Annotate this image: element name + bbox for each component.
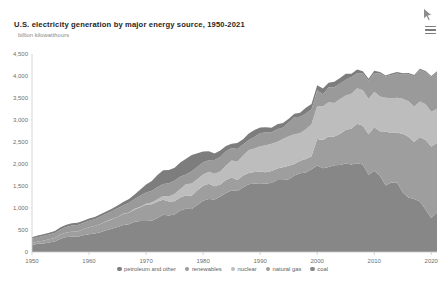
axis-lines — [32, 54, 437, 252]
y-axis-tick-label: 4,000 — [2, 73, 28, 79]
y-axis-tick-label: 3,500 — [2, 95, 28, 101]
legend-swatch-icon — [266, 267, 271, 272]
chart-legend: petroleum and otherrenewablesnuclearnatu… — [0, 266, 445, 272]
legend-swatch-icon — [310, 267, 315, 272]
x-axis-tick-label: 1950 — [25, 258, 38, 264]
x-axis-tick-label: 1980 — [196, 258, 209, 264]
menu-line-3 — [425, 33, 436, 34]
legend-label: nuclear — [238, 266, 257, 272]
stacked-area-chart — [0, 0, 445, 289]
y-axis-tick-label: 4,500 — [2, 51, 28, 57]
x-axis-tick-label: 2020 — [425, 258, 438, 264]
legend-swatch-icon — [117, 267, 122, 272]
legend-item-natural-gas[interactable]: natural gas — [266, 266, 302, 272]
y-axis-tick-label: 3,000 — [2, 117, 28, 123]
x-axis-tick-label: 2000 — [311, 258, 324, 264]
x-axis-tick-label: 1970 — [139, 258, 152, 264]
area-series-petroleum-and-other — [32, 69, 437, 239]
chart-subtitle: billion kilowatthours — [18, 32, 69, 38]
legend-item-petroleum-and-other[interactable]: petroleum and other — [117, 266, 176, 272]
legend-label: renewables — [192, 266, 222, 272]
legend-item-renewables[interactable]: renewables — [185, 266, 222, 272]
y-axis-tick-label: 2,500 — [2, 139, 28, 145]
menu-line-1 — [425, 26, 436, 27]
x-axis-tick-label: 1990 — [253, 258, 266, 264]
x-axis-tick-label: 1960 — [82, 258, 95, 264]
menu-line-2 — [425, 29, 436, 30]
y-axis-tick-label: 0 — [2, 249, 28, 255]
y-axis-tick-label: 1,000 — [2, 205, 28, 211]
legend-label: natural gas — [273, 266, 302, 272]
area-series-renewables — [32, 70, 437, 243]
legend-swatch-icon — [185, 267, 190, 272]
area-series-nuclear — [32, 88, 437, 243]
mouse-cursor-icon — [422, 7, 435, 22]
legend-item-coal[interactable]: coal — [310, 266, 328, 272]
legend-label: petroleum and other — [124, 266, 176, 272]
y-axis-tick-label: 2,000 — [2, 161, 28, 167]
legend-item-nuclear[interactable]: nuclear — [231, 266, 257, 272]
area-series-natural-gas — [32, 124, 437, 245]
x-axis-tick-label: 2010 — [368, 258, 381, 264]
legend-swatch-icon — [231, 267, 236, 272]
legend-label: coal — [317, 266, 328, 272]
plot-area — [0, 0, 445, 289]
area-series-coal — [32, 163, 437, 252]
hamburger-menu-icon[interactable] — [425, 24, 437, 36]
y-axis-tick-label: 1,500 — [2, 183, 28, 189]
y-axis-tick-label: 500 — [2, 227, 28, 233]
page-title: U.S. electricity generation by major ene… — [14, 20, 245, 29]
chart-page: U.S. electricity generation by major ene… — [0, 0, 445, 289]
